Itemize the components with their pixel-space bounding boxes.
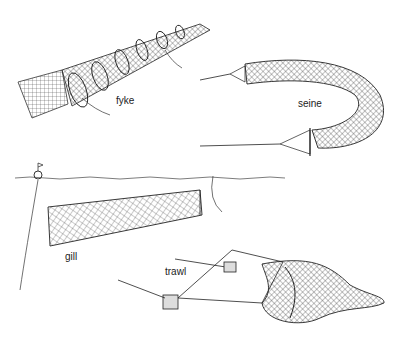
gill-net — [15, 163, 285, 290]
gill-label: gill — [65, 251, 77, 262]
seine-label: seine — [298, 98, 322, 109]
fyke-label: fyke — [116, 95, 134, 106]
seine-net — [200, 60, 384, 156]
nets-drawing — [0, 0, 409, 337]
fishing-nets-illustration: fyke seine gill trawl — [0, 0, 409, 337]
trawl-label: trawl — [165, 266, 186, 277]
trawl-net — [118, 250, 384, 323]
fyke-net — [18, 24, 210, 118]
